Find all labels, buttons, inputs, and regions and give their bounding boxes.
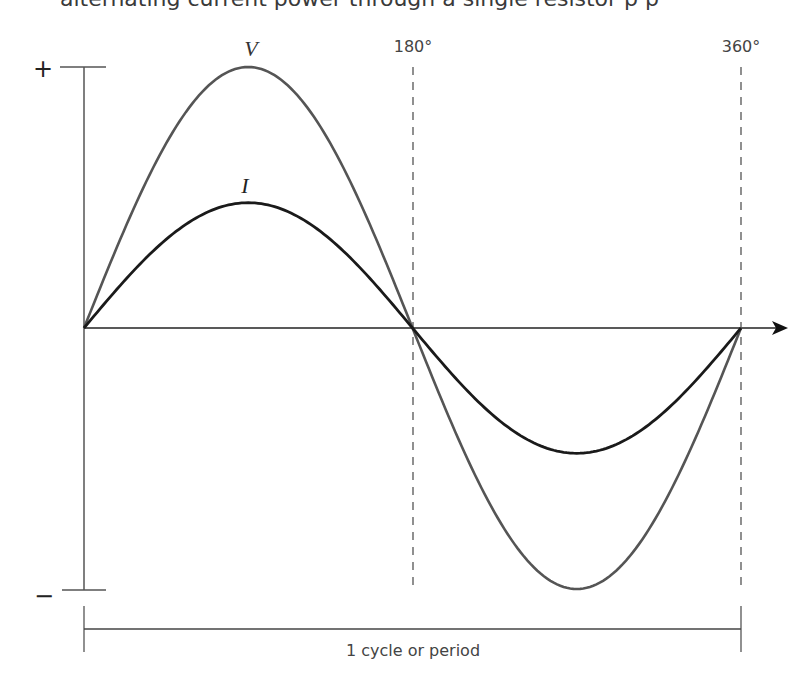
- negative-label: −: [34, 582, 54, 610]
- voltage-label: V: [244, 36, 260, 61]
- period-label: 1 cycle or period: [346, 641, 480, 660]
- horizontal-axis: [84, 321, 788, 335]
- current-label: I: [240, 173, 250, 198]
- marker-label-360: 360°: [722, 37, 761, 56]
- sine-wave-diagram: + − 180° 360° V I 1 cycle or period: [0, 0, 811, 685]
- marker-label-180: 180°: [394, 37, 433, 56]
- positive-label: +: [33, 55, 53, 83]
